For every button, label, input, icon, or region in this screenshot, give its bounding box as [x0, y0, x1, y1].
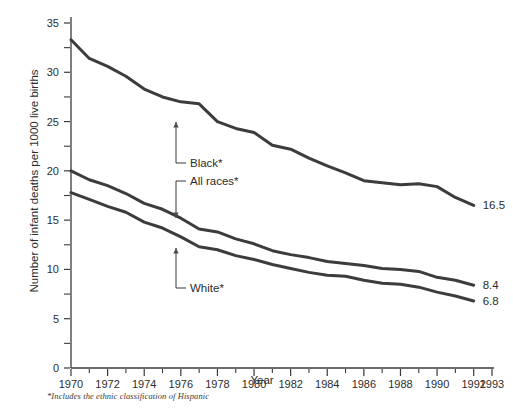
annotation-label: Black* — [190, 157, 223, 169]
x-tick-label: 1990 — [425, 378, 449, 390]
series-line-black- — [71, 40, 474, 206]
y-tick-label: 20 — [47, 165, 59, 177]
x-tick-label: 1970 — [59, 378, 83, 390]
annotation-label: White* — [190, 282, 224, 294]
x-axis: 1970197219741976197819801982198419861988… — [59, 368, 504, 390]
y-axis: 05101520253035 — [47, 17, 71, 374]
x-tick-label: 1978 — [205, 378, 229, 390]
y-tick-label: 0 — [53, 362, 59, 374]
chart-footnote: *Includes the ethnic classification of H… — [47, 391, 209, 401]
series-annotations: Black*All races*White* — [173, 122, 239, 294]
y-axis-title: Number of infant deaths per 1000 live bi… — [28, 61, 40, 301]
x-tick-label: 1972 — [95, 378, 119, 390]
x-tick-label: 1986 — [352, 378, 376, 390]
x-tick-label: 1984 — [315, 378, 339, 390]
x-tick-label: 1993 — [480, 378, 504, 390]
annotation-all-races-: All races* — [173, 175, 239, 218]
y-tick-label: 25 — [47, 116, 59, 128]
end-value-label: 6.8 — [483, 295, 499, 307]
series-lines — [71, 40, 474, 301]
chart-figure: 05101520253035 1970197219741976197819801… — [0, 0, 513, 414]
y-tick-label: 30 — [47, 66, 59, 78]
y-tick-label: 10 — [47, 263, 59, 275]
x-tick-label: 1974 — [132, 378, 156, 390]
series-line-white- — [71, 193, 474, 301]
y-tick-label: 15 — [47, 214, 59, 226]
annotation-black-: Black* — [173, 122, 223, 169]
series-end-labels: 16.58.46.8 — [483, 199, 505, 307]
line-chart-canvas: 05101520253035 1970197219741976197819801… — [0, 0, 513, 414]
annotation-white-: White* — [173, 248, 224, 294]
x-tick-label: 1976 — [169, 378, 193, 390]
x-tick-label: 1982 — [278, 378, 302, 390]
series-line-all-races- — [71, 171, 474, 285]
y-tick-label: 35 — [47, 17, 59, 29]
x-tick-label: 1988 — [388, 378, 412, 390]
y-tick-label: 5 — [53, 313, 59, 325]
end-value-label: 8.4 — [483, 279, 500, 291]
x-axis-title: Year — [250, 374, 273, 386]
annotation-label: All races* — [190, 175, 239, 187]
end-value-label: 16.5 — [483, 199, 505, 211]
